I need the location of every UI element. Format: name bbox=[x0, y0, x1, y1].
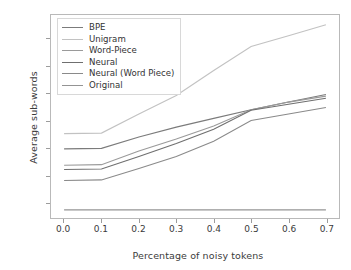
x-axis-tick-label: 0.6 bbox=[274, 224, 304, 234]
legend-line-swatch bbox=[62, 73, 83, 74]
series-line bbox=[64, 108, 326, 181]
x-axis-tick-label: 0.1 bbox=[86, 224, 116, 234]
legend-line-swatch bbox=[62, 27, 83, 28]
x-axis-tick-mark bbox=[251, 219, 252, 223]
x-axis-tick-mark bbox=[327, 219, 328, 223]
x-axis-tick-label: 0.5 bbox=[236, 224, 266, 234]
legend-line-swatch bbox=[62, 62, 83, 63]
x-axis-tick-mark bbox=[176, 219, 177, 223]
series-line bbox=[64, 98, 326, 169]
legend-item[interactable]: Word-Piece bbox=[62, 45, 174, 57]
chart-figure: Average sub-words Percentage of noisy to… bbox=[0, 0, 351, 270]
legend-item-label: BPE bbox=[89, 22, 106, 34]
x-axis-tick-mark bbox=[101, 219, 102, 223]
legend-item[interactable]: Neural bbox=[62, 57, 174, 69]
legend-item[interactable]: Unigram bbox=[62, 34, 174, 46]
x-axis-tick-mark bbox=[289, 219, 290, 223]
x-axis-tick-label: 0.4 bbox=[199, 224, 229, 234]
legend-item[interactable]: BPE bbox=[62, 22, 174, 34]
legend-item-label: Neural (Word Piece) bbox=[89, 68, 174, 80]
x-axis-tick-mark bbox=[214, 219, 215, 223]
legend-item[interactable]: Original bbox=[62, 80, 174, 92]
x-axis-tick-label: 0.7 bbox=[312, 224, 342, 234]
legend-line-swatch bbox=[62, 39, 83, 40]
series-line bbox=[64, 96, 326, 165]
x-axis-tick-label: 0.3 bbox=[161, 224, 191, 234]
x-axis-tick-mark bbox=[63, 219, 64, 223]
legend-item[interactable]: Neural (Word Piece) bbox=[62, 68, 174, 80]
x-axis-label: Percentage of noisy tokens bbox=[50, 250, 346, 261]
legend-line-swatch bbox=[62, 85, 83, 86]
legend-line-swatch bbox=[62, 50, 83, 51]
x-axis-tick-label: 0.2 bbox=[124, 224, 154, 234]
legend-item-label: Unigram bbox=[89, 34, 126, 46]
x-axis-tick-mark bbox=[139, 219, 140, 223]
legend-item-label: Word-Piece bbox=[89, 45, 137, 57]
legend-item-label: Neural bbox=[89, 57, 117, 69]
x-axis-tick-label: 0.0 bbox=[48, 224, 78, 234]
y-axis-label: Average sub-words bbox=[28, 38, 39, 198]
legend-item-label: Original bbox=[89, 80, 123, 92]
legend: BPEUnigramWord-PieceNeuralNeural (Word P… bbox=[57, 18, 181, 95]
